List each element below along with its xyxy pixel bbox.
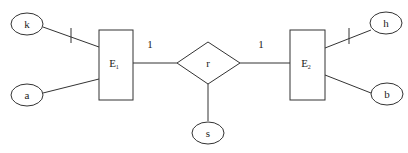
cardinality-r-e2: 1 xyxy=(258,38,264,50)
attribute-k: k xyxy=(11,13,43,35)
entity-e1: E1 xyxy=(99,30,133,100)
line-a-e1 xyxy=(43,79,99,93)
attribute-a-label: a xyxy=(25,89,30,101)
attribute-k-label: k xyxy=(24,18,30,30)
attribute-h: h xyxy=(370,12,402,34)
attribute-h-label: h xyxy=(383,17,389,29)
attribute-s: s xyxy=(192,122,224,144)
line-e2-h xyxy=(325,30,371,48)
attribute-a: a xyxy=(11,84,43,106)
attribute-s-label: s xyxy=(206,127,210,139)
attribute-b: b xyxy=(371,83,403,105)
line-e2-b xyxy=(325,75,371,93)
relationship-r: r xyxy=(177,42,240,84)
attribute-b-label: b xyxy=(384,88,390,100)
entity-e2: E2 xyxy=(290,30,325,100)
er-diagram: k a h b s E1 E2 r 1 1 xyxy=(0,0,408,153)
relationship-r-label: r xyxy=(206,57,210,69)
cardinality-e1-r: 1 xyxy=(147,38,153,50)
